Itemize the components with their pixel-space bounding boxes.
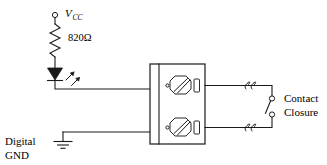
screw-lower-nub [166,126,169,129]
schematic-svg: V CC 820Ω Digital GND Contact Closure [0,0,327,165]
screw-upper-nub [166,84,169,87]
ground-label-line1: Digital [5,135,36,147]
contact-closure-label-line1: Contact [284,92,318,104]
wire-clamp-upper [194,79,200,92]
led-to-terminal-upper-wire [55,81,150,90]
led-anode-triangle [48,68,63,80]
switch-pole-lower [269,112,274,117]
resistor-zigzag [50,24,60,57]
switch-lower-lead [262,117,272,128]
contact-closure-label-line2: Closure [284,106,318,118]
switch-upper-lead [262,86,272,97]
resistor-value-label: 820Ω [68,32,92,43]
ground-label-line2: GND [5,149,29,161]
switch-pole-upper [269,96,274,101]
led-emission-arrows [66,72,80,86]
vcc-terminal-node [52,12,57,17]
vcc-subscript-label: CC [73,13,84,22]
wire-clamp-lower [194,121,200,134]
switch-arm [266,101,271,113]
circuit-diagram-canvas: V CC 820Ω Digital GND Contact Closure [0,0,327,165]
